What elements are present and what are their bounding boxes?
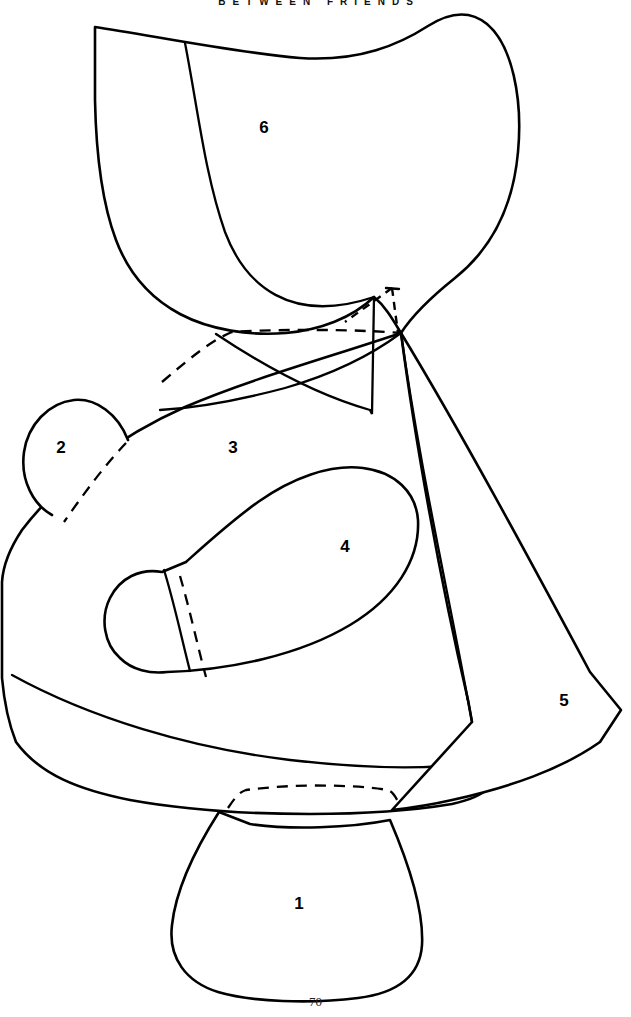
piece-label-1: 1 [294, 895, 303, 912]
piece-6-outline [95, 14, 519, 333]
piece-label-4: 4 [340, 538, 349, 555]
pattern-drawing [0, 0, 631, 1017]
apex-notch-tick [386, 288, 399, 289]
piece-label-5: 5 [559, 692, 568, 709]
page-number: 70 [0, 995, 631, 1009]
piece-label-3: 3 [228, 439, 237, 456]
piece-6-shape [95, 14, 519, 333]
pattern-page: BETWEEN FRIENDS [0, 0, 631, 1017]
piece-label-2: 2 [56, 439, 65, 456]
piece-label-6: 6 [259, 119, 268, 136]
